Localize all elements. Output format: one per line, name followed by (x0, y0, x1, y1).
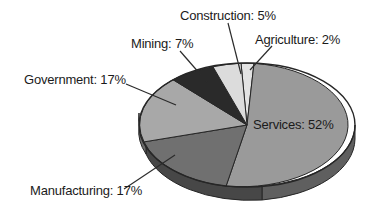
label-agriculture: Agriculture: 2% (255, 32, 340, 47)
label-government: Government: 17% (24, 72, 126, 87)
label-services: Services: 52% (253, 117, 334, 132)
pie-chart-figure: Construction: 5% Agriculture: 2% Mining:… (0, 0, 372, 218)
label-construction: Construction: 5% (180, 8, 276, 23)
label-mining: Mining: 7% (131, 36, 193, 51)
label-manufacturing: Manufacturing: 17% (30, 183, 142, 198)
